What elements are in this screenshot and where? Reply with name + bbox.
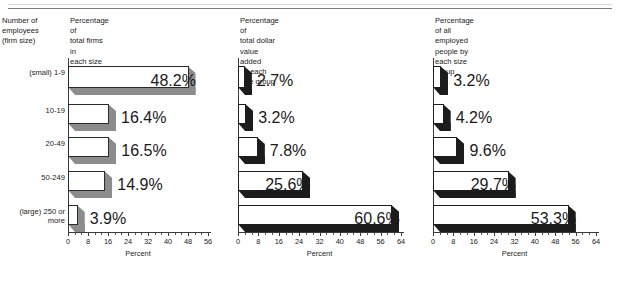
bar-value-label-0-4: 3.9% [90,210,126,228]
x-ticklabel-1-5: 40 [336,237,344,246]
x-axis-title-2: Percent [502,249,527,258]
bar-1-0 [238,66,252,95]
x-ticklabel-0-5: 40 [164,237,172,246]
bar-value-label-0-3: 14.9% [117,176,162,194]
x-ticklabel-2-0: 0 [431,237,435,246]
x-minor-tick-1-4-1 [326,233,327,235]
x-minor-tick-0-6-2 [201,233,202,235]
x-tick-1-5 [340,233,341,236]
top-rule-faint [8,4,612,5]
bar-bottom-face-1-1 [238,123,253,131]
bar-0-4 [68,205,85,232]
bar-value-label-2-2: 9.6% [469,142,505,160]
bar-bottom-face-1-0 [238,87,252,95]
x-ticklabel-2-4: 32 [510,237,518,246]
x-minor-tick-2-4-1 [521,233,522,235]
x-ticklabel-0-3: 24 [124,237,132,246]
x-minor-tick-2-3-1 [501,233,502,235]
bar-bottom-face-0-2 [68,156,116,164]
bar-front-face-1-1 [238,104,246,124]
bar-front-face-2-0 [433,66,441,88]
x-minor-tick-1-0-2 [252,233,253,235]
x-minor-tick-1-3-2 [313,233,314,235]
bar-0-2 [68,137,116,164]
x-tick-2-8 [596,233,597,236]
x-ticklabel-1-8: 64 [397,237,405,246]
category-label-0: (small) 1-9 [0,68,65,77]
x-tick-2-1 [453,233,454,236]
x-ticklabel-2-1: 8 [451,237,455,246]
x-minor-tick-2-2-2 [487,233,488,235]
x-tick-2-5 [535,233,536,236]
x-minor-tick-0-5-1 [175,233,176,235]
x-ticklabel-1-6: 48 [356,237,364,246]
x-tick-0-4 [148,233,149,236]
x-tick-0-2 [108,233,109,236]
x-minor-tick-2-2-1 [481,233,482,235]
bar-bottom-face-2-1 [433,123,451,131]
x-tick-2-3 [494,233,495,236]
x-minor-tick-2-4-2 [528,233,529,235]
category-label-2: 20-49 [0,139,65,148]
x-tick-1-7 [381,233,382,236]
category-label-4: (large) 250 or more [0,207,65,225]
x-minor-tick-0-1-2 [101,233,102,235]
bar-value-label-1-0: 2.7% [257,72,293,90]
x-minor-tick-1-1-1 [265,233,266,235]
x-minor-tick-0-3-2 [141,233,142,235]
x-minor-tick-1-3-1 [306,233,307,235]
bar-2-0 [433,66,448,95]
x-minor-tick-1-5-1 [347,233,348,235]
bar-front-face-2-2 [433,137,457,157]
x-minor-tick-0-2-1 [115,233,116,235]
bar-front-face-1-0 [238,66,245,88]
bar-value-label-1-3: 25.6% [265,176,299,194]
x-tick-0-5 [168,233,169,236]
bar-front-face-0-4 [68,205,78,225]
bar-bottom-face-0-3 [68,190,112,198]
row-label-header: Number of employees (firm size) [2,16,66,47]
x-tick-1-1 [258,233,259,236]
x-tick-0-0 [68,233,69,236]
x-minor-tick-0-4-1 [155,233,156,235]
x-minor-tick-1-2-2 [292,233,293,235]
x-tick-1-4 [320,233,321,236]
bar-bottom-face-2-0 [433,87,448,95]
x-minor-tick-0-4-2 [161,233,162,235]
x-ticklabel-1-3: 24 [295,237,303,246]
x-ticklabel-2-8: 64 [592,237,600,246]
x-minor-tick-2-1-1 [460,233,461,235]
bar-value-label-0-1: 16.4% [121,109,166,127]
x-tick-2-2 [474,233,475,236]
x-minor-tick-0-0-1 [75,233,76,235]
x-tick-1-0 [238,233,239,236]
bar-1-1 [238,104,253,131]
x-tick-0-1 [88,233,89,236]
bar-front-face-0-1 [68,104,109,124]
x-ticklabel-1-1: 8 [256,237,260,246]
x-tick-0-7 [208,233,209,236]
x-ticklabel-1-7: 56 [377,237,385,246]
bar-value-label-1-1: 3.2% [258,109,294,127]
bar-value-label-2-4: 53.3% [531,210,565,228]
x-minor-tick-0-0-2 [81,233,82,235]
x-tick-2-0 [433,233,434,236]
bar-value-label-1-4: 60.6% [354,210,388,228]
x-ticklabel-0-2: 16 [104,237,112,246]
bar-front-face-2-1 [433,104,444,124]
x-ticklabel-0-0: 0 [66,237,70,246]
bar-front-face-0-3 [68,171,105,191]
bar-0-3 [68,171,112,198]
bar-0-1 [68,104,116,131]
bar-1-2 [238,137,265,164]
x-ticklabel-2-6: 48 [551,237,559,246]
x-tick-1-6 [360,233,361,236]
x-tick-2-7 [576,233,577,236]
category-label-column: (small) 1-910-1920-4950-249(large) 250 o… [0,62,68,222]
x-axis-title-1: Percent [307,249,332,258]
top-rule [8,8,612,9]
x-ticklabel-2-3: 24 [490,237,498,246]
x-minor-tick-2-3-2 [508,233,509,235]
x-minor-tick-2-7-2 [589,233,590,235]
x-minor-tick-1-7-2 [394,233,395,235]
